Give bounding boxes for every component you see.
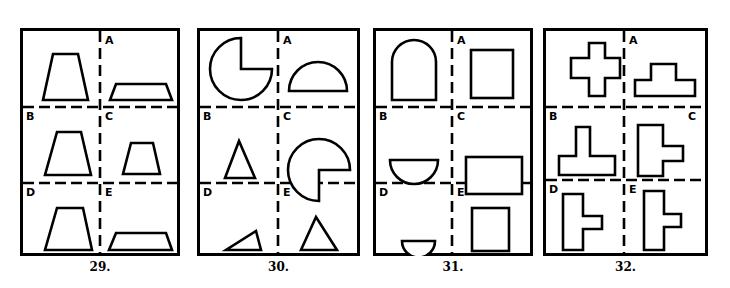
puzzle-item-29[interactable]: A B C D E 29. [20,28,180,256]
cell-label-a: A [457,35,466,46]
cell-label-d: D [379,187,388,198]
cell-label-e: E [457,187,465,198]
cell-divider-lines [197,28,360,256]
cell-label-a: A [629,35,638,46]
puzzle-number-32: 32. [543,260,708,274]
puzzle-number-29: 29. [20,260,180,274]
cell-label-b: B [549,111,557,122]
cell-label-a: A [105,35,114,46]
cell-label-c: C [457,111,465,122]
cell-label-a: A [283,35,292,46]
puzzle-number-31: 31. [373,260,533,274]
cell-divider-lines [543,28,708,256]
cell-label-d: D [549,184,558,195]
cell-label-c: C [105,111,113,122]
cell-divider-lines [373,28,533,256]
cell-label-b: B [26,111,34,122]
cell-label-e: E [283,187,291,198]
cell-label-c: C [283,111,291,122]
cell-label-e: E [629,184,637,195]
puzzle-item-32[interactable]: A B C D E 32. [543,28,708,256]
puzzle-number-30: 30. [197,260,360,274]
cell-divider-lines [20,28,180,256]
cell-label-b: B [203,111,211,122]
cell-label-e: E [105,187,113,198]
puzzle-item-30[interactable]: A B C D E 30. [197,28,360,256]
cell-label-b: B [379,111,387,122]
cell-label-d: D [203,187,212,198]
worksheet-sheet: A B C D E 29. A B C [0,0,730,288]
cell-label-d: D [26,187,35,198]
puzzle-item-31[interactable]: A B C D E 31. [373,28,533,256]
cell-label-c: C [688,111,696,122]
